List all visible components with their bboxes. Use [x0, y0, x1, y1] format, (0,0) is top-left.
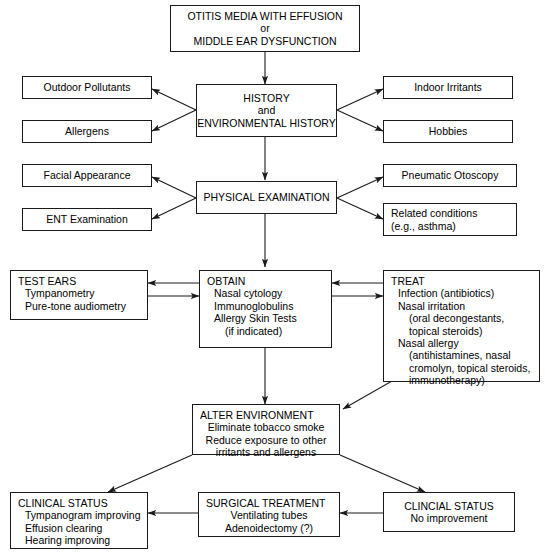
treat-item-4: topical steroids): [384, 325, 539, 337]
obtain-item-2: Immunoglobulins: [200, 300, 331, 312]
ent-examination-box: ENT Examination: [22, 208, 152, 231]
related-conditions-box: Related conditions (e.g., asthma): [383, 203, 517, 236]
history-line-3: ENVIRONMENTAL HISTORY: [197, 117, 336, 129]
physical-examination-label: PHYSICAL EXAMINATION: [197, 191, 336, 203]
treat-item-1: Infection (antibiotics): [384, 287, 539, 299]
hobbies-box: Hobbies: [383, 120, 513, 143]
obtain-heading: OBTAIN: [200, 275, 331, 287]
ent-examination-label: ENT Examination: [23, 213, 151, 225]
obtain-box: OBTAIN Nasal cytology Immunoglobulins Al…: [199, 270, 332, 348]
obtain-item-4: (if indicated): [200, 325, 331, 337]
treat-item-3: (oral decongestants,: [384, 312, 539, 324]
flowchart-canvas: OTITIS MEDIA WITH EFFUSION or MIDDLE EAR…: [0, 0, 545, 555]
alter-environment-heading: ALTER ENVIRONMENT: [193, 409, 339, 421]
physical-examination-box: PHYSICAL EXAMINATION: [196, 181, 337, 214]
treat-heading: TREAT: [384, 275, 539, 287]
test-ears-item-1: Tympanometry: [11, 287, 147, 299]
related-conditions-line-2: (e.g., asthma): [384, 220, 516, 232]
history-line-2: and: [197, 104, 336, 116]
alter-environment-item-3: irritants and allergens: [193, 446, 339, 458]
clinical-status-no-improvement-heading: CLINCIAL STATUS: [384, 500, 514, 512]
related-conditions-line-1: Related conditions: [384, 207, 516, 219]
hobbies-label: Hobbies: [384, 125, 512, 137]
treat-item-6: (antihistamines, nasal: [384, 349, 539, 361]
surgical-treatment-item-2: Adenoidectomy (?): [199, 522, 339, 534]
history-box: HISTORY and ENVIRONMENTAL HISTORY: [196, 84, 337, 137]
treat-item-7: cromolyn, topical steroids,: [384, 362, 539, 374]
test-ears-box: TEST EARS Tympanometry Pure-tone audiome…: [10, 270, 148, 320]
clinical-status-improving-box: CLINICAL STATUS Tympanogram improving Ef…: [10, 492, 148, 549]
obtain-item-3: Allergy Skin Tests: [200, 312, 331, 324]
surgical-treatment-item-1: Ventilating tubes: [199, 509, 339, 521]
pneumatic-otoscopy-label: Pneumatic Otoscopy: [384, 169, 516, 181]
outdoor-pollutants-label: Outdoor Pollutants: [23, 81, 151, 93]
allergens-box: Allergens: [22, 120, 152, 143]
alter-environment-item-1: Eliminate tobacco smoke: [193, 421, 339, 433]
treat-item-2: Nasal irritation: [384, 300, 539, 312]
treat-item-8: immunotherapy): [384, 374, 539, 386]
clinical-status-improving-item-2: Effusion clearing: [11, 522, 147, 534]
treat-box: TREAT Infection (antibiotics) Nasal irri…: [383, 270, 540, 382]
otitis-media-title-box: OTITIS MEDIA WITH EFFUSION or MIDDLE EAR…: [170, 5, 360, 52]
title-line-1: OTITIS MEDIA WITH EFFUSION: [171, 10, 359, 22]
allergens-label: Allergens: [23, 125, 151, 137]
facial-appearance-label: Facial Appearance: [23, 169, 151, 181]
test-ears-item-2: Pure-tone audiometry: [11, 300, 147, 312]
clinical-status-improving-heading: CLINICAL STATUS: [11, 497, 147, 509]
facial-appearance-box: Facial Appearance: [22, 164, 152, 187]
indoor-irritants-label: Indoor Irritants: [384, 81, 512, 93]
surgical-treatment-box: SURGICAL TREATMENT Ventilating tubes Ade…: [198, 492, 340, 537]
alter-environment-item-2: Reduce exposure to other: [193, 434, 339, 446]
pneumatic-otoscopy-box: Pneumatic Otoscopy: [383, 164, 517, 187]
clinical-status-no-improvement-box: CLINCIAL STATUS No improvement: [383, 492, 515, 532]
history-line-1: HISTORY: [197, 92, 336, 104]
treat-item-5: Nasal allergy: [384, 337, 539, 349]
surgical-treatment-heading: SURGICAL TREATMENT: [199, 497, 339, 509]
alter-environment-box: ALTER ENVIRONMENT Eliminate tobacco smok…: [192, 404, 340, 455]
test-ears-heading: TEST EARS: [11, 275, 147, 287]
indoor-irritants-box: Indoor Irritants: [383, 76, 513, 99]
obtain-item-1: Nasal cytology: [200, 287, 331, 299]
outdoor-pollutants-box: Outdoor Pollutants: [22, 76, 152, 99]
title-line-3: MIDDLE EAR DYSFUNCTION: [171, 35, 359, 47]
clinical-status-improving-item-1: Tympanogram improving: [11, 509, 147, 521]
clinical-status-improving-item-3: Hearing improving: [11, 534, 147, 546]
title-line-2: or: [171, 22, 359, 34]
clinical-status-no-improvement-item-1: No improvement: [384, 512, 514, 524]
